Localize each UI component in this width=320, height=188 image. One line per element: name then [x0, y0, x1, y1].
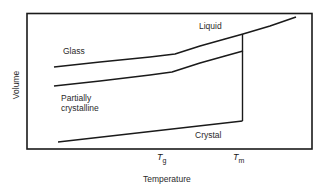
label-liquid: Liquid	[199, 21, 222, 31]
volume-temperature-diagram: Liquid Glass Partially crystalline Cryst…	[0, 0, 320, 188]
label-crystal: Crystal	[195, 130, 221, 140]
glass-liquid-curve	[54, 17, 296, 67]
tick-tg: Tg	[157, 152, 166, 164]
y-axis-label: Volume	[11, 65, 21, 105]
x-axis-label: Temperature	[143, 174, 191, 184]
tick-tm: Tm	[233, 152, 244, 164]
tick-tg-sub: g	[163, 157, 167, 164]
label-partially-crystalline: Partially crystalline	[61, 93, 99, 113]
label-glass: Glass	[63, 46, 85, 56]
partially-crystalline-curve	[54, 51, 243, 86]
tick-tm-sub: m	[239, 157, 245, 164]
